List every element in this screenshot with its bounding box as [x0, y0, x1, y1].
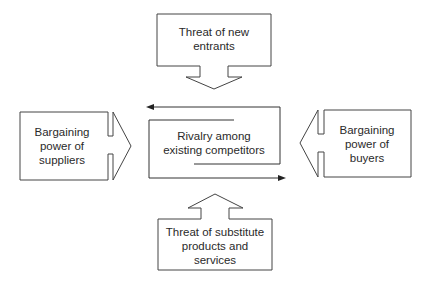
- node-label-line: Bargaining: [340, 124, 395, 136]
- node-label-line: buyers: [350, 152, 385, 164]
- node-rivalry-among-existing-competitors: Rivalry among existing competitors: [146, 104, 286, 181]
- node-label-line: Rivalry among: [177, 130, 251, 142]
- node-label-line: suppliers: [39, 154, 85, 166]
- node-label-line: power of: [40, 140, 85, 152]
- node-label-line: Threat of new: [179, 26, 250, 38]
- node-label-line: products and: [182, 240, 249, 252]
- node-label-line: existing competitors: [163, 144, 265, 156]
- left-arrowhead-icon: [146, 104, 154, 110]
- node-threat-of-new-entrants: Threat of new entrants: [157, 14, 271, 89]
- node-label-line: power of: [345, 138, 390, 150]
- node-label-line: services: [194, 254, 236, 266]
- node-threat-of-substitutes: Threat of substitute products and servic…: [158, 194, 272, 270]
- node-bargaining-power-of-suppliers: Bargaining power of suppliers: [20, 112, 131, 180]
- node-label-line: Bargaining: [35, 126, 90, 138]
- porter-five-forces-diagram: Threat of new entrants Bargaining power …: [0, 0, 431, 285]
- node-label-line: Threat of substitute: [166, 226, 264, 238]
- node-bargaining-power-of-buyers: Bargaining power of buyers: [300, 110, 411, 177]
- node-label-line: entrants: [193, 40, 235, 52]
- right-arrowhead-icon: [278, 175, 286, 181]
